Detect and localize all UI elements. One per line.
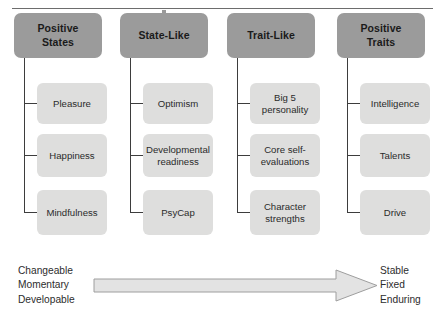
concept-box[interactable]: Developmental readiness — [143, 134, 213, 177]
concept-label-line1: Core self- — [264, 144, 306, 155]
connector-vertical — [24, 57, 25, 212]
column-header-line1: Positive — [37, 22, 78, 34]
connector-stub — [24, 103, 38, 104]
concept-box[interactable]: Pleasure — [37, 83, 107, 124]
column-header-line2: Traits — [367, 36, 396, 48]
continuum-section: Changeable Momentary Developable Stable … — [0, 256, 445, 316]
column-header-box[interactable]: Trait-Like — [227, 13, 315, 58]
concept-label-line1: Developmental — [146, 144, 210, 155]
continuum-right-label-2: Fixed — [380, 278, 421, 292]
continuum-left-label-1: Changeable — [18, 264, 75, 278]
column-header-line1: Positive — [360, 22, 401, 34]
concept-label-line1: PsyCap — [161, 207, 195, 218]
connector-stub — [347, 155, 361, 156]
column-header-box[interactable]: State-Like — [120, 13, 208, 58]
connector-stub — [130, 103, 144, 104]
column-positive-states: Positive States Pleasure Happiness Mindf… — [8, 0, 108, 245]
concept-box[interactable]: PsyCap — [143, 190, 213, 235]
continuum-right-labels: Stable Fixed Enduring — [380, 264, 421, 307]
concept-label-line2: strengths — [265, 213, 304, 224]
connector-vertical — [347, 57, 348, 212]
continuum-right-label-3: Enduring — [380, 293, 421, 307]
column-header-box[interactable]: Positive States — [14, 13, 102, 58]
concept-box[interactable]: Intelligence — [360, 83, 430, 124]
column-positive-traits: Positive Traits Intelligence Talents Dri… — [331, 0, 431, 245]
continuum-arrow — [93, 268, 378, 304]
connector-stub — [347, 212, 361, 213]
concept-label-line1: Happiness — [49, 150, 94, 161]
concept-box[interactable]: Big 5 personality — [250, 83, 320, 124]
concept-label-line1: Optimism — [158, 98, 199, 109]
connector-stub — [24, 155, 38, 156]
column-header-line2: States — [42, 36, 74, 48]
concept-label-line2: personality — [262, 104, 308, 115]
concept-box[interactable]: Character strengths — [250, 190, 320, 235]
connector-stub — [347, 103, 361, 104]
continuum-left-labels: Changeable Momentary Developable — [18, 264, 75, 307]
continuum-left-label-3: Developable — [18, 293, 75, 307]
connector-stub — [237, 155, 251, 156]
concept-label-line1: Pleasure — [53, 98, 91, 109]
connector-stub — [130, 212, 144, 213]
connector-stub — [24, 212, 38, 213]
concept-box[interactable]: Talents — [360, 134, 430, 177]
connector-stub — [237, 103, 251, 104]
concept-label-line2: evaluations — [261, 156, 310, 167]
column-header-box[interactable]: Positive Traits — [337, 13, 425, 58]
connector-stub — [237, 212, 251, 213]
concept-box[interactable]: Optimism — [143, 83, 213, 124]
connector-vertical — [130, 57, 131, 212]
column-header-line1: State-Like — [138, 29, 189, 41]
concept-label-line1: Character — [264, 201, 306, 212]
connector-vertical — [237, 57, 238, 212]
column-header-line1: Trait-Like — [247, 29, 295, 41]
connector-stub — [130, 155, 144, 156]
concept-box[interactable]: Mindfulness — [37, 190, 107, 235]
column-state-like: State-Like Optimism Developmental readin… — [114, 0, 214, 245]
concept-box[interactable]: Drive — [360, 190, 430, 235]
concept-label-line1: Drive — [384, 207, 406, 218]
concept-box[interactable]: Core self- evaluations — [250, 134, 320, 177]
column-trait-like: Trait-Like Big 5 personality Core self- … — [221, 0, 321, 245]
concept-label-line1: Intelligence — [371, 98, 420, 109]
concept-box[interactable]: Happiness — [37, 134, 107, 177]
continuum-right-label-1: Stable — [380, 264, 421, 278]
concept-label-line1: Big 5 — [274, 92, 296, 103]
continuum-left-label-2: Momentary — [18, 278, 75, 292]
concept-label-line1: Mindfulness — [46, 207, 97, 218]
concept-diagram: Positive States Pleasure Happiness Mindf… — [0, 0, 445, 321]
concept-label-line2: readiness — [157, 156, 199, 167]
concept-label-line1: Talents — [380, 150, 410, 161]
